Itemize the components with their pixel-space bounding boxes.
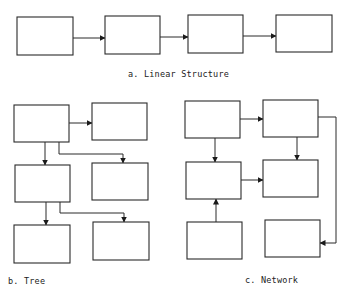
node-c5 <box>187 222 242 259</box>
caption-tree: b. Tree <box>8 276 45 286</box>
node-c1 <box>185 101 240 138</box>
diagram-canvas <box>0 0 348 290</box>
node-a3 <box>188 15 243 53</box>
node-b1 <box>14 105 69 142</box>
node-b5 <box>14 225 70 263</box>
tree-diagram <box>14 103 149 263</box>
network-diagram <box>185 100 336 259</box>
node-c2 <box>263 100 318 137</box>
node-b3 <box>15 165 70 202</box>
node-c3 <box>186 162 241 199</box>
caption-linear-structure: a. Linear Structure <box>128 69 229 79</box>
node-b2 <box>92 103 147 140</box>
arrow-b1-to-b4 <box>59 142 123 163</box>
node-c6 <box>265 220 320 257</box>
linear-structure-diagram <box>17 15 332 55</box>
node-a4 <box>276 15 332 52</box>
node-c4 <box>263 160 318 197</box>
arrow-c2-to-c6 <box>318 117 336 243</box>
arrow-b3-to-b6 <box>60 202 124 222</box>
node-b4 <box>92 163 148 200</box>
node-a1 <box>17 17 73 55</box>
node-b6 <box>93 222 149 260</box>
caption-network: c. Network <box>245 275 298 285</box>
node-a2 <box>105 16 160 54</box>
